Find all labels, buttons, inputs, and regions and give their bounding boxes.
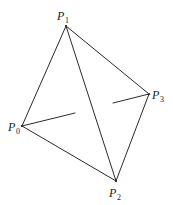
edges-group	[22, 26, 149, 181]
vertex-label-p2: P	[108, 186, 117, 200]
vertex-dots-group	[21, 25, 150, 182]
vertex-label-subscript-p3: 3	[160, 95, 164, 104]
vertex-p1	[65, 25, 67, 27]
tetrahedron-diagram: P0P1P2P3	[0, 0, 173, 205]
hidden-edge-p0-p3-segment-1	[113, 94, 149, 103]
vertex-label-subscript-p2: 2	[117, 193, 121, 202]
vertex-p2	[115, 180, 117, 182]
vertex-label-p3: P	[151, 88, 160, 102]
edge-p1-p3	[66, 26, 149, 94]
vertex-label-subscript-p0: 0	[16, 127, 20, 136]
vertex-label-subscript-p1: 1	[65, 16, 69, 25]
edge-p0-p2	[22, 126, 116, 181]
edge-p3-p2	[116, 94, 149, 181]
hidden-edge-p0-p3-segment-0	[22, 113, 75, 126]
vertex-p0	[21, 125, 23, 127]
edge-p1-p2	[66, 26, 116, 181]
vertex-p3	[148, 93, 150, 95]
vertex-label-p1: P	[56, 9, 65, 23]
hidden-edge-group	[22, 94, 149, 126]
edge-p0-p1	[22, 26, 66, 126]
vertex-label-p0: P	[7, 120, 16, 134]
